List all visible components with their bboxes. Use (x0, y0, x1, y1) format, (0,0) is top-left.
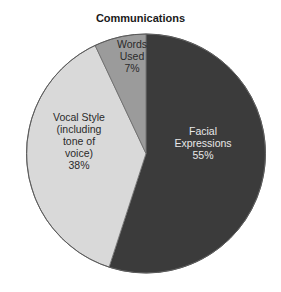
pie-chart: FacialExpressions55%Vocal Style(includin… (0, 0, 281, 292)
